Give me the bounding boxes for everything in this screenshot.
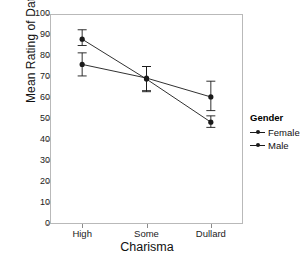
data-point (80, 62, 85, 67)
legend: Gender FemaleMale (250, 112, 300, 151)
data-point (80, 37, 85, 42)
data-point (208, 94, 213, 99)
data-point (208, 120, 213, 125)
legend-item-label: Male (268, 140, 289, 151)
x-axis-title: Charisma (50, 240, 244, 254)
legend-title: Gender (250, 112, 300, 123)
chart-figure: Mean Rating of Date 10090807060504030201… (0, 0, 306, 267)
legend-item-label: Female (268, 127, 300, 138)
legend-marker-icon (250, 140, 265, 150)
legend-marker-icon (250, 127, 265, 137)
data-point (144, 77, 149, 82)
series-male (78, 30, 216, 128)
legend-item-male[interactable]: Male (250, 139, 300, 151)
legend-item-female[interactable]: Female (250, 126, 300, 138)
